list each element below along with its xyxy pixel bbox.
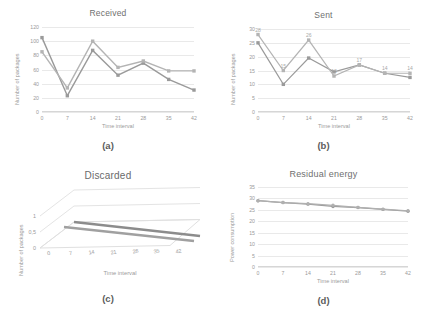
y-axis-tick: 15 [249,68,258,74]
x-axis-tick: 0 [257,115,260,121]
chart-title-discarded: Discarded [0,170,216,181]
chart-title-sent: Sent [216,10,431,20]
y-axis-tick: 40 [33,81,42,87]
x-axis-tick: 7 [282,270,285,276]
x-axis-title-received: Time interval [42,123,194,129]
data-label: 14 [382,65,388,71]
data-label: 14 [407,65,413,71]
series-marker [358,63,361,66]
gridline [42,112,194,113]
x-axis-tick: 42 [405,270,411,276]
series-marker [40,36,43,39]
series-marker [40,50,43,53]
x-axis-tick: 28 [355,270,361,276]
x-axis-tick: 21 [331,115,337,121]
series-marker [383,72,386,75]
data-label: 15 [281,63,287,69]
figure-grid: Received 020406080100120071421283542 Tim… [0,0,431,318]
x-axis-tick: 35 [380,270,386,276]
panel-caption-b: (b) [216,140,431,151]
series-layer [258,187,408,267]
x-axis-title-residual-energy: Time interval [258,278,408,284]
x-axis-tick: 7 [282,115,285,121]
panel-caption-d: (d) [216,295,431,306]
y-axis-tick: 60 [33,67,42,73]
series-marker [91,39,94,42]
series-marker [256,41,259,44]
y-axis-tick: 20 [249,54,258,60]
series-marker [282,69,285,72]
plot-area-sent: 05101520253007142128354228152613171414 [258,29,410,112]
x-axis-tick: 35 [153,247,160,254]
chart-title-residual-energy: Residual energy [216,169,431,179]
series-marker [408,76,411,79]
data-label: 28 [255,27,261,33]
panel-caption-c: (c) [0,293,216,304]
data-label: 26 [306,32,312,38]
chart-plot-discarded: 00,51071421283542 [40,190,200,248]
series-marker [192,88,195,91]
plot-area-discarded: 00,51071421283542 [40,190,200,248]
x-axis-tick: 21 [115,115,121,121]
y-axis-tick: 100 [30,38,42,44]
series-marker [256,33,259,36]
x-axis-tick: 35 [166,115,172,121]
x-axis-tick: 21 [330,270,336,276]
y-axis-title-residual-energy: Power consumption [229,213,235,262]
x-axis-tick: 28 [356,115,362,121]
series-marker [192,69,195,72]
x-axis-tick: 0 [41,115,44,121]
x-axis-tick: 0 [47,250,51,256]
x-axis-title-sent: Time interval [258,123,410,129]
x-axis-tick: 7 [66,115,69,121]
plot-area-residual-energy: 05101520253035071421283542 [258,187,408,267]
y-axis-tick: 20 [33,95,42,101]
series-marker [66,86,69,89]
series-marker [306,202,309,205]
x-axis-tick: 7 [68,249,72,255]
chart-title-received: Received [0,8,216,18]
y-axis-tick: 0 [33,245,36,251]
series-marker [381,207,384,210]
chart-plot-residual-energy: 05101520253035071421283542 Time interval [258,187,408,267]
series-marker [406,209,409,212]
series-marker [91,49,94,52]
data-label: 17 [357,57,363,63]
series-marker [332,74,335,77]
series-marker [307,38,310,41]
x-axis-tick: 14 [88,249,95,256]
series-marker [66,94,69,97]
y-axis-tick: 10 [249,241,258,247]
series-marker [256,199,259,202]
y-axis-title-received: Number of packages [14,53,20,105]
series-marker [167,69,170,72]
panel-a: Received 020406080100120071421283542 Tim… [0,0,216,160]
y-axis-tick: 1 [33,213,36,219]
x-axis-tick: 0 [257,270,260,276]
series-marker [167,78,170,81]
series-marker [408,72,411,75]
gridline-3d [74,204,200,207]
gridline-3d [74,188,200,191]
panel-c: Discarded 00,51071421283542 Number of pa… [0,160,216,318]
x-axis-tick: 28 [132,248,139,255]
gridline [258,112,410,113]
x-axis-tick: 14 [305,270,311,276]
series-marker [356,206,359,209]
panel-b: Sent 05101520253007142128354228152613171… [216,0,431,160]
depth-edge [40,190,74,216]
series-marker [281,201,284,204]
plot-area-received: 020406080100120071421283542 [42,27,194,112]
series-marker [116,66,119,69]
y-axis-tick: 15 [249,230,258,236]
data-label: 13 [331,68,337,74]
panel-caption-a: (a) [0,140,216,151]
series-layer [42,27,194,112]
gridline [258,267,408,268]
y-axis-title-sent: Number of packages [230,53,236,105]
x-axis-title-discarded: Time interval [40,270,200,276]
y-axis-tick: 35 [249,184,258,190]
chart-plot-sent: 05101520253007142128354228152613171414 T… [258,29,410,112]
x-axis-tick: 21 [110,248,117,255]
series-marker [282,83,285,86]
